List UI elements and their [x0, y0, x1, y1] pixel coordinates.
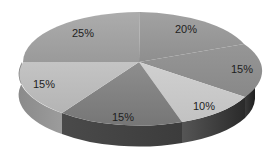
label-15-right: 15%	[231, 63, 253, 75]
label-15-left: 15%	[33, 78, 55, 90]
pie-top	[19, 12, 262, 126]
pie-chart: 25% 20% 15% 10% 15% 15%	[0, 0, 275, 168]
label-10: 10%	[193, 100, 215, 112]
label-15-bottom: 15%	[112, 111, 134, 123]
label-25: 25%	[72, 27, 94, 39]
label-20: 20%	[175, 23, 197, 35]
